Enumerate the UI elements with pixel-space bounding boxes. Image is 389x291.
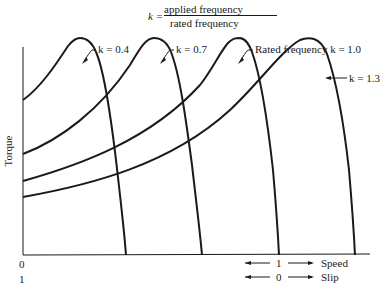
slip-label: Slip	[321, 272, 339, 283]
label-k-1.0: Rated frequency k = 1.0	[255, 44, 361, 55]
origin-slip-value: 1	[19, 274, 25, 285]
label-k-0.7: k = 0.7	[176, 44, 207, 55]
label-k-1.3: k = 1.3	[349, 73, 380, 84]
origin-speed-value: 0	[19, 259, 25, 270]
formula-denominator: rated frequency	[170, 17, 239, 29]
curve-k-1.0	[23, 38, 279, 255]
y-axis-label: Torque	[2, 136, 14, 167]
curve-k-0.7	[23, 38, 202, 255]
speed-label: Speed	[321, 258, 348, 269]
formula-lhs: k =	[148, 10, 163, 22]
x-axis	[23, 254, 370, 255]
fraction-bar	[164, 15, 277, 16]
rated-speed-value: 1	[276, 258, 282, 269]
rated-slip-value: 0	[276, 272, 282, 283]
formula-numerator: applied frequency	[164, 3, 243, 15]
label-k-0.4: k = 0.4	[98, 44, 129, 55]
